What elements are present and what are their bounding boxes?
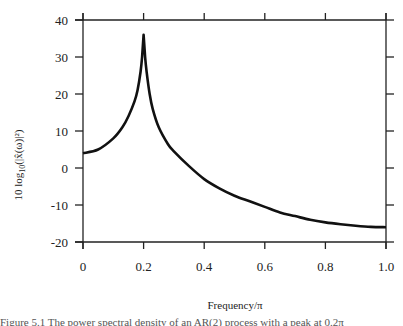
y-label-subscript: 10: [18, 165, 27, 173]
y-tick-label: 30: [55, 50, 68, 65]
y-label-prefix: 10 log: [12, 172, 24, 200]
x-tick-label: 0.4: [196, 259, 213, 274]
y-tick-label: 10: [55, 124, 68, 139]
x-tick-label: 1.0: [378, 259, 394, 274]
x-axis-ticks: 00.20.40.60.81.0: [80, 13, 394, 274]
x-tick-label: 0.2: [135, 259, 151, 274]
x-tick-label: 0.6: [257, 259, 274, 274]
x-axis-label: Frequency/π: [207, 299, 262, 311]
x-tick-label: 0.8: [317, 259, 333, 274]
y-tick-label: 0: [62, 161, 69, 176]
figure-caption: Figure 5.1 The power spectral density of…: [0, 316, 403, 326]
y-tick-label: 40: [55, 13, 68, 28]
y-label-suffix: (|x̂(ω)|²): [12, 129, 25, 164]
y-axis-ticks: 403020100-10-20: [51, 13, 394, 250]
y-tick-label: -20: [51, 235, 68, 250]
y-axis-label: 10 log10(|x̂(ω)|²): [12, 129, 27, 200]
y-tick-label: 20: [55, 87, 68, 102]
x-tick-label: 0: [80, 259, 87, 274]
plot-frame: [75, 13, 386, 249]
svg-text:10 log10(|x̂(ω)|²): 10 log10(|x̂(ω)|²): [12, 129, 27, 200]
y-tick-label: -10: [51, 198, 68, 213]
spectrum-curve: [83, 35, 386, 227]
